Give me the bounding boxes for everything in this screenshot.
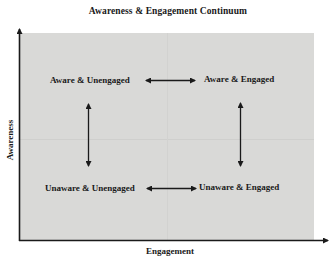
axes-and-arrows bbox=[0, 0, 336, 266]
quadrant-aware-unengaged: Aware & Unengaged bbox=[50, 75, 130, 85]
quadrant-aware-engaged: Aware & Engaged bbox=[204, 74, 274, 84]
x-axis-label: Engagement bbox=[0, 246, 336, 256]
quadrant-unaware-unengaged: Unaware & Unengaged bbox=[45, 183, 135, 193]
y-axis-label: Awareness bbox=[5, 120, 15, 161]
quadrant-unaware-engaged: Unaware & Engaged bbox=[199, 182, 279, 192]
